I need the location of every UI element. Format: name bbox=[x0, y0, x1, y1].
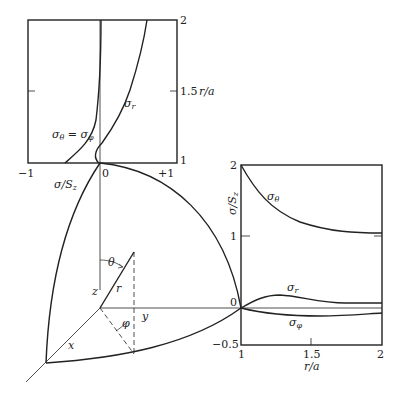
top-x-tick-0: 0 bbox=[102, 167, 109, 180]
phi-label: φ bbox=[122, 317, 130, 330]
radius-label: r bbox=[116, 282, 122, 295]
right-sigma-r-label: σr bbox=[287, 281, 300, 295]
right-x-axis-label: r/a bbox=[304, 360, 320, 373]
right-sigma-phi-curve bbox=[241, 308, 382, 316]
right-x-tick-1: 1 bbox=[238, 348, 245, 361]
top-sigma-theta-phi-curve bbox=[65, 20, 101, 163]
right-y-tick-0: 0 bbox=[230, 296, 237, 309]
right-sigma-phi-label: σφ bbox=[289, 316, 303, 330]
projection-diagonal bbox=[100, 308, 134, 354]
top-y-tick-1-5: 1.5 bbox=[180, 85, 198, 98]
z-axis-label: z bbox=[91, 285, 98, 298]
top-x-tick-pos1: +1 bbox=[158, 167, 174, 180]
right-y-tick-2: 2 bbox=[230, 159, 237, 172]
sphere-octant bbox=[26, 163, 241, 382]
right-y-axis-label: σ/Sz bbox=[226, 191, 240, 215]
top-y-tick-2: 2 bbox=[180, 14, 187, 27]
right-x-tick-2: 2 bbox=[377, 348, 384, 361]
right-sigma-theta-curve bbox=[241, 165, 382, 233]
right-panel bbox=[241, 165, 382, 345]
top-sigma-r-label: σr bbox=[124, 97, 137, 111]
right-sigma-theta-label: σθ bbox=[267, 190, 280, 204]
top-x-axis-label: σ/Sz bbox=[54, 178, 78, 192]
theta-label: θ bbox=[108, 256, 115, 269]
top-sigma-theta-phi-label: σθ = σφ bbox=[52, 128, 94, 142]
stress-distribution-figure: −1 0 +1 2 1.5 r/a 1 σ/Sz σr σθ = σφ bbox=[0, 0, 400, 395]
top-x-tick-neg1: −1 bbox=[18, 167, 34, 180]
right-y-tick-1: 1 bbox=[230, 230, 237, 243]
octant-arc-top-left bbox=[46, 163, 100, 363]
top-sigma-r-curve bbox=[95, 20, 147, 163]
coordinate-labels: θ r z y φ x bbox=[68, 256, 149, 352]
right-sigma-r-curve bbox=[241, 295, 382, 308]
x-axis-label: x bbox=[68, 339, 75, 352]
top-y-axis-label: r/a bbox=[199, 85, 215, 98]
y-axis-label: y bbox=[141, 310, 149, 323]
top-panel bbox=[28, 20, 177, 290]
x-axis-line bbox=[26, 308, 100, 382]
right-panel-frame bbox=[241, 165, 382, 345]
right-panel-labels: 2 1 0 −0.5 1 1.5 2 r/a σ/Sz σθ σr σφ bbox=[212, 159, 384, 373]
top-y-tick-1: 1 bbox=[180, 154, 187, 167]
right-y-tick-neg0-5: −0.5 bbox=[212, 338, 239, 351]
